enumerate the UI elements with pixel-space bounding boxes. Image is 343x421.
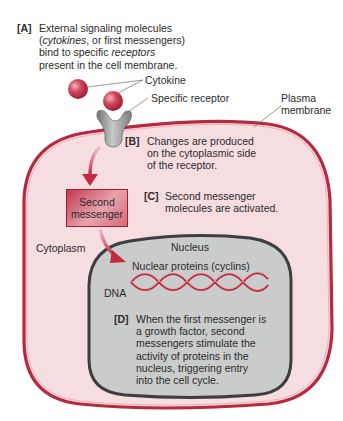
label-dna: DNA xyxy=(104,287,126,299)
cytokine-free xyxy=(68,79,88,99)
label-plasma-membrane-line2: membrane xyxy=(281,104,331,116)
label-cytokine: Cytokine xyxy=(145,74,186,86)
step-a-line: present in the cell membrane. xyxy=(39,59,185,71)
second-messenger-line1: Second xyxy=(79,196,115,208)
label-specific-receptor: Specific receptor xyxy=(151,92,229,104)
step-b-line: of the receptor. xyxy=(147,159,256,171)
step-d-line: nucleus, triggering entry xyxy=(136,362,266,374)
step-d-line: a growth factor, second xyxy=(136,325,266,337)
label-cytoplasm: Cytoplasm xyxy=(36,242,86,254)
step-d-line: messengers stimulate the xyxy=(136,337,266,349)
step-b-line: Changes are produced xyxy=(147,135,256,147)
step-a-line: bind to specific receptors xyxy=(39,46,185,58)
step-a-tag: [A] xyxy=(17,22,32,34)
second-messenger-box: Second messenger xyxy=(66,189,128,227)
label-nuclear-proteins: Nuclear proteins (cyclins) xyxy=(132,260,250,272)
step-b-line: on the cytoplasmic side xyxy=(147,147,256,159)
step-c-line: Second messenger xyxy=(165,190,278,202)
step-d-line: activity of proteins in the xyxy=(136,350,266,362)
step-d-line: into the cell cycle. xyxy=(136,374,266,386)
label-plasma-membrane: Plasma membrane xyxy=(281,92,331,116)
step-d-tag: [D] xyxy=(114,313,129,325)
step-a-text: External signaling molecules (cytokines,… xyxy=(39,22,185,71)
label-nucleus: Nucleus xyxy=(171,241,209,253)
step-a-line: (cytokines, or first messengers) xyxy=(39,34,185,46)
step-c-tag: [C] xyxy=(144,190,159,202)
step-c-line: molecules are activated. xyxy=(165,202,278,214)
step-b-text: Changes are produced on the cytoplasmic … xyxy=(147,135,256,172)
step-b-tag: [B] xyxy=(125,135,140,147)
cytokine-bound xyxy=(103,91,123,111)
step-d-text: When the first messenger is a growth fac… xyxy=(136,313,266,386)
label-plasma-membrane-line1: Plasma xyxy=(281,92,331,104)
second-messenger-line2: messenger xyxy=(71,208,123,220)
step-c-text: Second messenger molecules are activated… xyxy=(165,190,278,214)
step-a-line: External signaling molecules xyxy=(39,22,185,34)
step-d-line: When the first messenger is xyxy=(136,313,266,325)
